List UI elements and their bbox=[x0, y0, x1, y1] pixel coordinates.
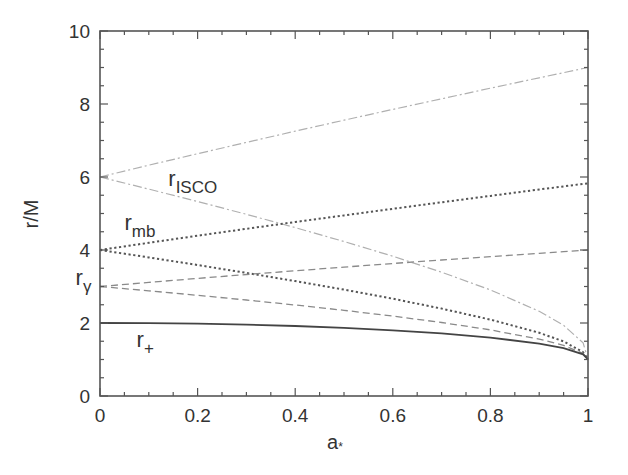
spin-radius-chart: 00.20.40.60.810246810 r/M a* rISCOrmbrγr… bbox=[0, 0, 628, 475]
y-tick-label: 0 bbox=[79, 386, 90, 407]
x-tick-label: 1 bbox=[583, 405, 594, 426]
label-r-gamma: rγ bbox=[76, 265, 92, 296]
x-tick-label: 0.2 bbox=[184, 405, 210, 426]
curve-r_plus bbox=[100, 323, 588, 360]
y-tick-label: 10 bbox=[69, 21, 90, 42]
y-tick-label: 4 bbox=[79, 240, 90, 261]
x-tick-label: 0.8 bbox=[477, 405, 503, 426]
y-tick-label: 2 bbox=[79, 313, 90, 334]
curve-labels: rISCOrmbrγr+ bbox=[76, 166, 218, 358]
x-tick-label: 0.4 bbox=[282, 405, 309, 426]
label-r-+: r+ bbox=[137, 327, 154, 358]
x-axis-label: a* bbox=[327, 431, 343, 454]
y-tick-label: 6 bbox=[79, 167, 90, 188]
x-tick-label: 0.6 bbox=[380, 405, 406, 426]
curve-r_ISCO bbox=[100, 177, 588, 360]
plot-curves bbox=[100, 68, 588, 360]
x-tick-label: 0 bbox=[95, 405, 106, 426]
label-r-mb: rmb bbox=[124, 210, 155, 241]
curve-r_mb bbox=[100, 183, 588, 250]
y-axis-label: r/M bbox=[20, 200, 42, 229]
curve-r_gamma bbox=[100, 250, 588, 287]
y-tick-label: 8 bbox=[79, 94, 90, 115]
x-axis-label-sub: * bbox=[338, 440, 343, 454]
label-r-isco: rISCO bbox=[168, 166, 217, 197]
curve-r_mb bbox=[100, 250, 588, 360]
curve-r_ISCO bbox=[100, 68, 588, 178]
